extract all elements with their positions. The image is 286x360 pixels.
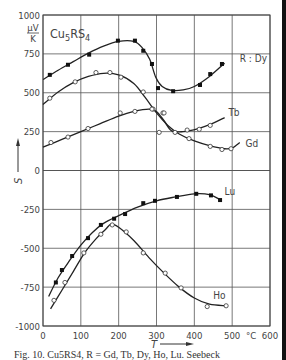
filled-marker-icon [194, 192, 198, 196]
open-marker-icon [118, 111, 122, 115]
open-marker-icon [224, 304, 228, 308]
filled-marker-icon [116, 39, 120, 43]
open-marker-icon [162, 111, 166, 115]
y-tick-label: -1000 [15, 321, 40, 332]
axis-tick-labels: 0100200300400500600°C7505002500-250-500-… [15, 10, 278, 342]
open-marker-icon [73, 80, 77, 84]
open-marker-icon [197, 127, 201, 131]
filled-marker-icon [150, 62, 154, 66]
x-tick-label: 100 [73, 330, 89, 341]
open-marker-icon [150, 107, 154, 111]
seebeck-chart: 0100200300400500600°C7505002500-250-500-… [0, 0, 286, 360]
curve-gd [43, 73, 240, 149]
y-unit-numerator: µV [27, 22, 38, 33]
open-marker-icon [82, 251, 86, 255]
series-label-lu: Lu [225, 186, 236, 197]
open-marker-icon [119, 75, 123, 79]
filled-marker-icon [153, 199, 157, 203]
open-marker-icon [173, 130, 177, 134]
y-tick-label: 750 [24, 48, 40, 59]
curve-ho [51, 224, 227, 309]
filled-marker-icon [70, 254, 74, 258]
y-tick-label: 0 [35, 165, 40, 176]
open-marker-icon [86, 126, 90, 130]
open-marker-icon [220, 147, 224, 151]
open-marker-icon [94, 70, 98, 74]
x-tick-label: 500 [224, 330, 240, 341]
filled-marker-icon [208, 72, 212, 76]
series-label-tb: Tb [227, 107, 239, 118]
open-marker-icon [179, 286, 183, 290]
filled-marker-icon [87, 53, 91, 57]
x-tick-label: 400 [186, 330, 202, 341]
data-curves [43, 41, 240, 309]
open-marker-icon [205, 304, 209, 308]
filled-marker-icon [220, 62, 224, 66]
open-marker-icon [229, 147, 233, 151]
filled-marker-icon [86, 236, 90, 240]
series-label-dy: R : Dy [240, 53, 268, 64]
series-labels: R : DyGdTbLuHo [213, 53, 267, 302]
filled-marker-icon [218, 198, 222, 202]
open-marker-icon [48, 96, 52, 100]
open-marker-icon [185, 128, 189, 132]
series-label-gd: Gd [245, 138, 258, 149]
x-unit-label: °C [246, 330, 256, 341]
open-marker-icon [52, 298, 56, 302]
y-tick-label: 500 [24, 87, 40, 98]
filled-marker-icon [99, 223, 103, 227]
open-marker-icon [133, 109, 137, 113]
filled-marker-icon [123, 212, 127, 216]
open-marker-icon [187, 137, 191, 141]
filled-marker-icon [66, 63, 70, 67]
y-tick-label: -250 [21, 204, 40, 215]
open-marker-icon [124, 230, 128, 234]
open-marker-icon [108, 70, 112, 74]
series-label-ho: Ho [213, 290, 226, 301]
chart-title: Cu5RS4 [50, 26, 90, 43]
x-axis-arrowhead-icon [186, 342, 194, 346]
page-edge-bar [282, 0, 286, 360]
y-tick-label: 1000 [18, 10, 40, 21]
open-marker-icon [49, 140, 53, 144]
x-tick-label: 0 [40, 330, 45, 341]
filled-marker-icon [60, 268, 64, 272]
y-tick-label: -500 [21, 243, 40, 254]
filled-marker-icon [156, 86, 160, 90]
open-marker-icon [157, 130, 161, 134]
filled-marker-icon [209, 193, 213, 197]
open-marker-icon [110, 223, 114, 227]
filled-marker-icon [198, 83, 202, 87]
filled-marker-icon [48, 73, 52, 77]
open-marker-icon [208, 144, 212, 148]
y-axis-arrowhead-icon [16, 138, 20, 146]
open-marker-icon [99, 232, 103, 236]
open-marker-icon [141, 90, 145, 94]
filled-marker-icon [112, 217, 116, 221]
filled-marker-icon [133, 39, 137, 43]
open-marker-icon [208, 123, 212, 127]
x-tick-label: 600 [262, 330, 278, 341]
open-marker-icon [163, 271, 167, 275]
y-tick-label: -750 [21, 282, 40, 293]
grid [43, 15, 270, 326]
open-marker-icon [63, 280, 67, 284]
open-marker-icon [66, 135, 70, 139]
chart-decorations: STCu5RS4 [13, 26, 194, 350]
figure-caption: Fig. 10. Cu5RS4, R = Gd, Tb, Dy, Ho, Lu.… [14, 349, 220, 360]
y-unit-denominator: K [30, 33, 36, 44]
y-tick-label: 250 [24, 126, 40, 137]
filled-marker-icon [141, 201, 145, 205]
filled-marker-icon [175, 195, 179, 199]
open-marker-icon [141, 251, 145, 255]
filled-marker-icon [171, 89, 175, 93]
y-axis-title: S [13, 177, 24, 184]
filled-marker-icon [141, 49, 145, 53]
x-tick-label: 200 [111, 330, 127, 341]
filled-marker-icon [54, 280, 58, 284]
